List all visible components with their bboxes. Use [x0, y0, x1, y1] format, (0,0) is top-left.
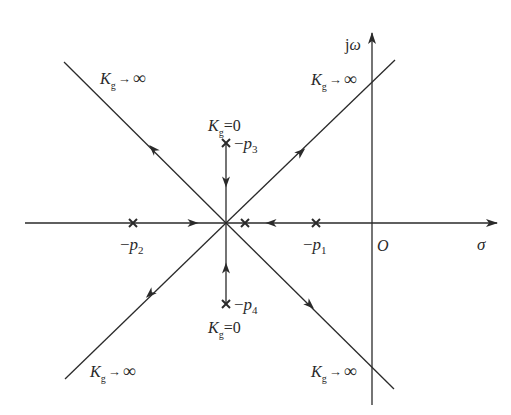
root-locus-diagram: σ jω O Kg→∞Kg→∞Kg→∞Kg→∞ Kg=0Kg=0 −p1−p2−… [0, 0, 511, 415]
pole-label-p2: −p2 [120, 235, 144, 256]
asymptote-lower-left [65, 223, 226, 379]
pole-label-p3: −p3 [234, 134, 258, 155]
pole-label-p4: −p4 [234, 295, 258, 316]
k-infinity-label-lower-right: Kg→∞ [310, 361, 357, 384]
pole-label-p1: −p1 [303, 235, 327, 256]
arrow-upper-right-icon [294, 148, 305, 158]
k-infinity-label-lower-left: Kg→∞ [89, 361, 136, 384]
k-infinity-label-upper-right: Kg→∞ [310, 69, 357, 92]
asymptote-branches [64, 60, 395, 389]
imag-axis-label: jω [344, 36, 361, 54]
root-locus-svg: σ jω O Kg→∞Kg→∞Kg→∞Kg→∞ Kg=0Kg=0 −p1−p2−… [0, 0, 511, 415]
k-infinity-label-upper-left: Kg→∞ [99, 68, 146, 91]
arrow-upper-left-icon [149, 145, 160, 156]
origin-label: O [377, 237, 389, 254]
imag-omega: ω [349, 36, 360, 53]
real-axis-label: σ [477, 235, 486, 254]
arrow-lower-right-icon [303, 298, 314, 308]
k-zero-label-bottom: Kg=0 [207, 319, 241, 340]
